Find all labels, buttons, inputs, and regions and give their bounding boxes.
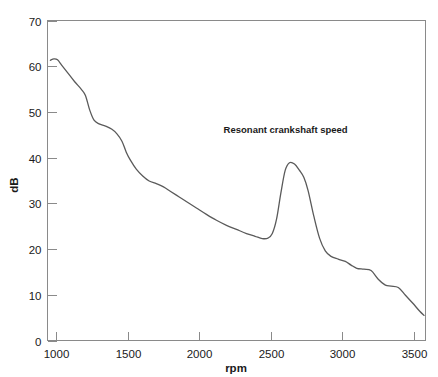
y-tick-label-0: 0 — [35, 336, 41, 348]
x-tick-label-1000: 1000 — [44, 348, 70, 360]
y-tick-label-70: 70 — [29, 16, 42, 28]
noise-level-curve — [50, 59, 424, 316]
x-axis-ticks — [57, 332, 415, 341]
x-tick-label-2000: 2000 — [187, 348, 213, 360]
line-chart: 010203040506070 100015002000250030003500… — [0, 0, 438, 377]
annotation-label-0: Resonant crankshaft speed — [224, 124, 348, 135]
y-tick-label-10: 10 — [29, 290, 42, 302]
y-tick-label-20: 20 — [29, 244, 42, 256]
y-tick-label-30: 30 — [29, 198, 42, 210]
x-axis-title: rpm — [225, 362, 247, 374]
x-axis-tick-labels: 100015002000250030003500 — [44, 348, 428, 360]
y-axis-ticks — [48, 22, 57, 342]
y-tick-label-60: 60 — [29, 61, 42, 73]
data-series-group — [50, 59, 424, 316]
chart-annotations: Resonant crankshaft speed — [224, 124, 348, 135]
y-axis-tick-labels: 010203040506070 — [29, 16, 42, 348]
x-tick-label-1500: 1500 — [116, 348, 142, 360]
plot-frame — [48, 21, 426, 341]
x-tick-label-2500: 2500 — [259, 348, 285, 360]
x-tick-label-3500: 3500 — [402, 348, 428, 360]
y-axis-title: dB — [8, 177, 20, 192]
x-tick-label-3000: 3000 — [330, 348, 356, 360]
y-tick-label-40: 40 — [29, 153, 42, 165]
y-tick-label-50: 50 — [29, 107, 42, 119]
chart-container: 010203040506070 100015002000250030003500… — [0, 0, 438, 377]
